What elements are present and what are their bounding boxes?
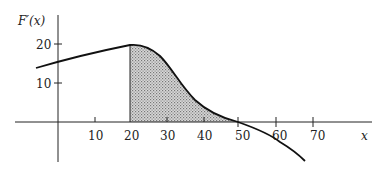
x-axis-label: x xyxy=(361,129,368,143)
svg-text:20: 20 xyxy=(36,38,51,52)
svg-text:30: 30 xyxy=(160,129,175,143)
svg-text:20: 20 xyxy=(124,129,139,143)
shaded-area xyxy=(130,45,238,122)
svg-text:70: 70 xyxy=(310,129,325,143)
svg-text:50: 50 xyxy=(235,129,250,143)
chart-svg: 20 10 10 20 30 40 50 60 70 x F′(x) xyxy=(0,0,385,175)
svg-text:40: 40 xyxy=(197,129,212,143)
svg-text:10: 10 xyxy=(36,77,51,91)
tick-labels: 20 10 10 20 30 40 50 60 70 x F′(x) xyxy=(17,14,368,143)
svg-text:10: 10 xyxy=(88,129,103,143)
y-axis-label: F′(x) xyxy=(17,14,46,28)
chart: 20 10 10 20 30 40 50 60 70 x F′(x) xyxy=(0,0,385,175)
